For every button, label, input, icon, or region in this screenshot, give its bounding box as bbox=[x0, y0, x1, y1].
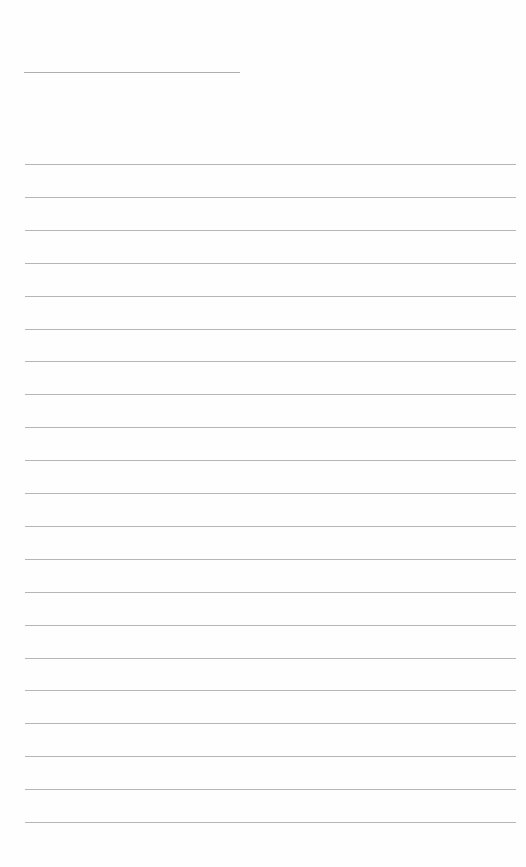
lined-paper-page bbox=[0, 0, 526, 867]
ruled-line bbox=[25, 394, 516, 395]
ruled-line bbox=[25, 296, 516, 297]
ruled-line bbox=[25, 756, 516, 757]
ruled-line bbox=[25, 789, 516, 790]
ruled-line bbox=[25, 658, 516, 659]
ruled-line bbox=[25, 197, 516, 198]
ruled-line bbox=[25, 592, 516, 593]
ruled-line bbox=[25, 690, 516, 691]
ruled-line bbox=[25, 263, 516, 264]
ruled-line bbox=[25, 427, 516, 428]
ruled-line bbox=[25, 822, 516, 823]
ruled-line bbox=[25, 164, 516, 165]
ruled-line bbox=[25, 493, 516, 494]
ruled-line bbox=[25, 723, 516, 724]
ruled-line bbox=[25, 230, 516, 231]
ruled-line bbox=[25, 559, 516, 560]
ruled-line bbox=[25, 526, 516, 527]
ruled-line bbox=[25, 329, 516, 330]
ruled-line bbox=[25, 625, 516, 626]
ruled-line bbox=[25, 460, 516, 461]
ruled-line bbox=[25, 361, 516, 362]
ruled-lines bbox=[0, 0, 526, 867]
